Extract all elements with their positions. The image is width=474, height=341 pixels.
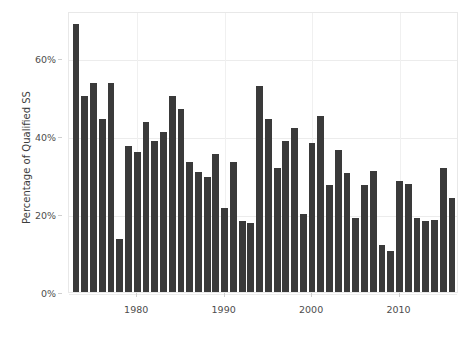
- x-tick-label: 1980: [124, 304, 148, 315]
- bar: [300, 214, 307, 292]
- bar: [204, 177, 211, 292]
- bar: [370, 171, 377, 292]
- bars-series: [69, 13, 457, 292]
- bar: [291, 128, 298, 292]
- bar: [309, 143, 316, 292]
- bar: [440, 168, 447, 292]
- y-tick-mark: [58, 59, 62, 60]
- bar: [108, 83, 115, 292]
- x-tick-mark: [399, 293, 400, 297]
- y-tick-label: 40%: [35, 131, 56, 142]
- bar: [186, 162, 193, 292]
- bar: [81, 96, 88, 292]
- x-tick-label: 1990: [212, 304, 236, 315]
- bar: [387, 251, 394, 292]
- bar: [431, 220, 438, 292]
- y-axis-title: Percentage of Qualified SS: [21, 48, 32, 268]
- bar: [178, 109, 185, 292]
- bar: [90, 83, 97, 292]
- bar: [256, 86, 263, 292]
- bar: [116, 239, 123, 292]
- bar: [352, 218, 359, 292]
- bar: [247, 223, 254, 292]
- y-axis: 0%20%40%60%: [0, 12, 64, 293]
- bar: [335, 150, 342, 292]
- x-tick-mark: [311, 293, 312, 297]
- bar: [282, 141, 289, 292]
- bar: [143, 122, 150, 292]
- bar: [195, 172, 202, 292]
- y-tick-label: 20%: [35, 209, 56, 220]
- x-tick-label: 2010: [386, 304, 410, 315]
- x-tick-mark: [136, 293, 137, 297]
- x-axis: 1980199020002010: [68, 293, 458, 323]
- bar: [326, 185, 333, 292]
- bar: [99, 119, 106, 292]
- bar: [274, 168, 281, 292]
- plot-area: [68, 12, 458, 293]
- bar: [317, 116, 324, 292]
- bar: [230, 162, 237, 292]
- bar: [221, 208, 228, 292]
- bar: [265, 119, 272, 292]
- bar: [212, 154, 219, 292]
- bar: [361, 185, 368, 292]
- bar: [344, 173, 351, 292]
- bar: [405, 184, 412, 292]
- bar: [73, 24, 80, 293]
- bar: [169, 96, 176, 292]
- bar: [239, 221, 246, 292]
- bar: [151, 141, 158, 292]
- bar: [422, 221, 429, 292]
- y-tick-label: 60%: [35, 53, 56, 64]
- bar: [134, 152, 141, 292]
- y-tick-mark: [58, 137, 62, 138]
- bar-chart: 0%20%40%60% Percentage of Qualified SS 1…: [0, 0, 474, 341]
- y-tick-label: 0%: [41, 288, 56, 299]
- x-tick-label: 2000: [299, 304, 323, 315]
- bar: [379, 245, 386, 292]
- bar: [125, 146, 132, 292]
- bar: [414, 218, 421, 292]
- y-tick-mark: [58, 293, 62, 294]
- bar: [160, 132, 167, 292]
- bar: [449, 198, 456, 292]
- x-tick-mark: [224, 293, 225, 297]
- y-tick-mark: [58, 215, 62, 216]
- bar: [396, 181, 403, 292]
